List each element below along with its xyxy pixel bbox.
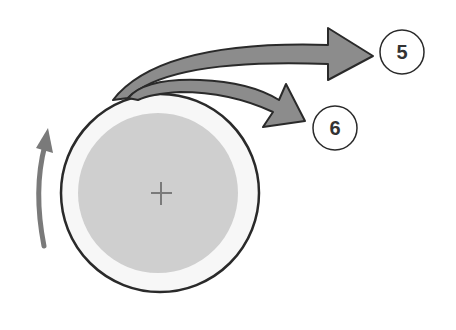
label-5: 5 (380, 30, 424, 74)
label-6: 6 (313, 106, 357, 150)
label-5-text: 5 (396, 41, 407, 63)
rotation-arrow-icon (36, 128, 53, 246)
label-6-text: 6 (329, 117, 340, 139)
wheel (61, 94, 259, 292)
diagram-canvas: 5 6 (0, 0, 456, 330)
